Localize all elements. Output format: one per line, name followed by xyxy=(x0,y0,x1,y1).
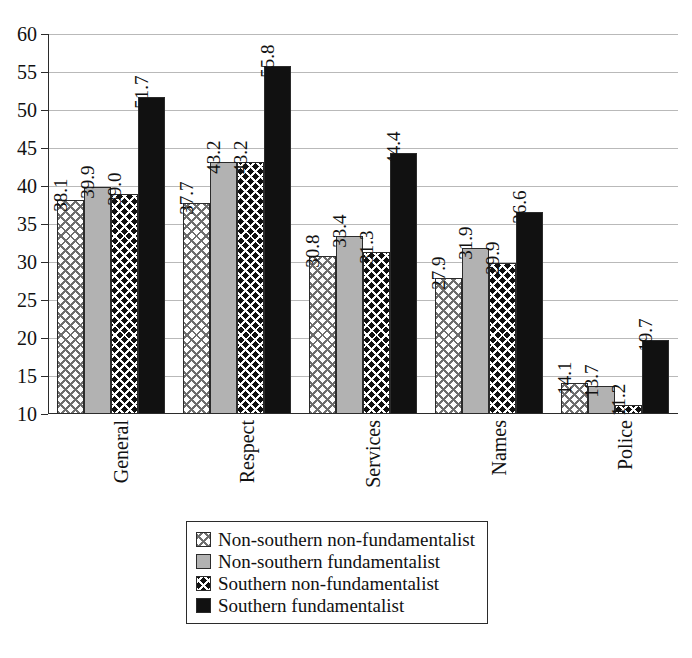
x-axis-category: General xyxy=(48,416,174,511)
y-axis-tick-label: 25 xyxy=(17,290,37,310)
bar-value-label: 43.2 xyxy=(204,140,223,173)
bar-value-label: 36.6 xyxy=(510,190,529,223)
y-axis-tick-label: 50 xyxy=(17,100,37,120)
y-axis-tick xyxy=(41,148,48,149)
bar-value-label: 55.8 xyxy=(258,44,277,77)
bar-value-label: 31.3 xyxy=(357,231,376,264)
bar-slot: 19.7 xyxy=(642,34,669,414)
bar[interactable]: 11.2 xyxy=(615,405,642,414)
y-axis-tick xyxy=(41,186,48,187)
bar-value-label: 51.7 xyxy=(132,75,151,108)
bar[interactable]: 27.9 xyxy=(435,278,462,414)
legend-item[interactable]: Southern non-fundamentalist xyxy=(196,572,475,594)
bar[interactable]: 29.9 xyxy=(489,263,516,414)
legend-item[interactable]: Non-southern fundamentalist xyxy=(196,550,475,572)
bar-slot: 14.1 xyxy=(561,34,588,414)
legend-swatch xyxy=(196,576,211,591)
legend-swatch xyxy=(196,532,211,547)
bar[interactable]: 43.2 xyxy=(237,162,264,414)
bar-value-label: 37.7 xyxy=(177,182,196,215)
y-axis-tick-label: 30 xyxy=(17,252,37,272)
y-axis-tick-label: 20 xyxy=(17,328,37,348)
bar[interactable]: 51.7 xyxy=(138,97,165,414)
bar-value-label: 33.4 xyxy=(330,215,349,248)
bar[interactable]: 55.8 xyxy=(264,66,291,414)
legend-label: Non-southern fundamentalist xyxy=(218,552,440,571)
x-axis-category-label: General xyxy=(111,420,131,483)
y-axis-tick xyxy=(41,300,48,301)
x-axis-category: Police xyxy=(552,416,678,511)
x-axis-category: Respect xyxy=(174,416,300,511)
bar-value-label: 38.1 xyxy=(51,179,70,212)
bar-group: 14.113.711.219.7 xyxy=(552,34,678,414)
bar[interactable]: 30.8 xyxy=(309,256,336,414)
bar-value-label: 14.1 xyxy=(555,361,574,394)
bar-slot: 13.7 xyxy=(588,34,615,414)
y-axis-tick-label: 40 xyxy=(17,176,37,196)
bar[interactable]: 39.9 xyxy=(84,187,111,414)
x-axis-category-label: Police xyxy=(615,420,635,470)
bar-value-label: 39.0 xyxy=(105,172,124,205)
legend-swatch xyxy=(196,554,211,569)
bar-value-label: 13.7 xyxy=(582,364,601,397)
bar[interactable]: 19.7 xyxy=(642,340,669,414)
bar-group: 37.743.243.255.8 xyxy=(174,34,300,414)
y-axis-tick xyxy=(41,262,48,263)
bar-value-label: 31.9 xyxy=(456,226,475,259)
bar-slot: 43.2 xyxy=(210,34,237,414)
legend-item[interactable]: Non-southern non-fundamentalist xyxy=(196,528,475,550)
legend-item[interactable]: Southern fundamentalist xyxy=(196,594,475,616)
bar-value-label: 19.7 xyxy=(636,319,655,352)
y-axis-tick xyxy=(41,414,48,415)
bar-value-label: 11.2 xyxy=(609,384,628,417)
bar-value-label: 29.9 xyxy=(483,241,502,274)
bar[interactable]: 39.0 xyxy=(111,194,138,414)
bar-chart: 6055504540353025201510 38.139.939.051.73… xyxy=(0,0,692,658)
legend-label: Southern non-fundamentalist xyxy=(218,574,439,593)
bar-value-label: 39.9 xyxy=(78,165,97,198)
bar-slot: 27.9 xyxy=(435,34,462,414)
bar-group: 30.833.431.344.4 xyxy=(300,34,426,414)
bar-slot: 38.1 xyxy=(57,34,84,414)
legend-swatch xyxy=(196,598,211,613)
bar[interactable]: 44.4 xyxy=(390,153,417,414)
legend-label: Non-southern non-fundamentalist xyxy=(218,530,475,549)
bar-slot: 39.9 xyxy=(84,34,111,414)
x-axis-category-label: Names xyxy=(489,420,509,476)
x-axis-category-label: Respect xyxy=(237,420,257,483)
y-axis-tick-label: 15 xyxy=(17,366,37,386)
y-axis-tick-label: 55 xyxy=(17,62,37,82)
bar[interactable]: 43.2 xyxy=(210,162,237,414)
plot-area: 6055504540353025201510 38.139.939.051.73… xyxy=(48,34,678,414)
x-axis-category-label: Services xyxy=(363,420,383,488)
bar-value-label: 27.9 xyxy=(429,256,448,289)
y-axis-tick xyxy=(41,376,48,377)
bar-slot: 55.8 xyxy=(264,34,291,414)
x-axis-category: Services xyxy=(300,416,426,511)
bar[interactable]: 31.3 xyxy=(363,252,390,414)
y-axis-tick xyxy=(41,224,48,225)
bar[interactable]: 38.1 xyxy=(57,200,84,414)
bar-slot: 37.7 xyxy=(183,34,210,414)
y-axis-tick-label: 60 xyxy=(17,24,37,44)
bar-groups: 38.139.939.051.737.743.243.255.830.833.4… xyxy=(48,34,678,414)
y-axis-tick-label: 10 xyxy=(17,404,37,424)
bar-group: 38.139.939.051.7 xyxy=(48,34,174,414)
y-axis-tick-label: 45 xyxy=(17,138,37,158)
bar[interactable]: 36.6 xyxy=(516,212,543,414)
bar-slot: 36.6 xyxy=(516,34,543,414)
x-axis-category: Names xyxy=(426,416,552,511)
bar-slot: 44.4 xyxy=(390,34,417,414)
bar[interactable]: 37.7 xyxy=(183,203,210,414)
bar-slot: 31.9 xyxy=(462,34,489,414)
bar-slot: 51.7 xyxy=(138,34,165,414)
bar-slot: 31.3 xyxy=(363,34,390,414)
legend-label: Southern fundamentalist xyxy=(218,596,404,615)
y-axis-tick xyxy=(41,34,48,35)
bar-value-label: 44.4 xyxy=(384,131,403,164)
x-axis-category-labels: GeneralRespectServicesNamesPolice xyxy=(48,416,678,511)
y-axis-tick-label: 35 xyxy=(17,214,37,234)
y-axis-tick xyxy=(41,338,48,339)
bar-slot: 11.2 xyxy=(615,34,642,414)
bar-group: 27.931.929.936.6 xyxy=(426,34,552,414)
